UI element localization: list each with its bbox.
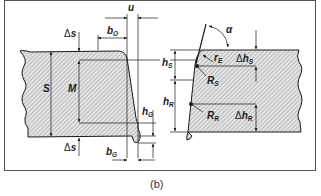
label-m: M — [68, 83, 77, 94]
label-delta-s-bottom: Δs — [64, 142, 77, 153]
label-alpha: α — [226, 24, 233, 35]
label-s: S — [43, 83, 50, 94]
label-delta-s-top: Δs — [64, 28, 77, 39]
label-u: u — [128, 2, 134, 13]
figure-caption: (b) — [150, 178, 163, 190]
edge-geometry-diagram: u bO Δs S M Δs hG bG — [0, 0, 321, 196]
left-sheet-section — [20, 51, 140, 143]
